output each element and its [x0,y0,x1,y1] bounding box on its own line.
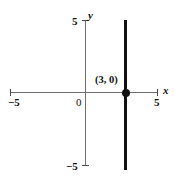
x-axis-ticklabel-positive-5: 5 [154,97,160,108]
y-axis-tick-negative-5 [82,165,89,166]
y-axis-line [85,20,86,165]
point-coordinate-label: (3, 0) [95,74,118,85]
y-axis-ticklabel-negative-5: −5 [66,161,78,172]
y-axis-label: y [88,10,93,21]
coordinate-plane-figure: x y −5 5 5 −5 0 (3, 0) [0,0,175,177]
x-axis-tick-negative-5 [10,89,11,96]
point-marker-3-0 [122,89,130,97]
x-axis-ticklabel-negative-5: −5 [8,97,20,108]
y-axis-ticklabel-positive-5: 5 [72,16,78,27]
x-axis-label: x [163,85,169,96]
x-axis-tick-positive-5 [157,89,158,96]
origin-label: 0 [76,97,82,108]
x-axis-line [10,92,158,93]
